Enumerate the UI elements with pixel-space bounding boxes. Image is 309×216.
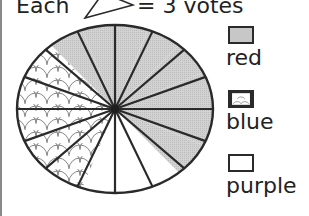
legend-label: purple (226, 174, 297, 198)
swatch-blue-icon (228, 90, 254, 108)
legend-label: blue (226, 110, 274, 134)
key-value: = 3 votes (137, 0, 244, 19)
pie-wedge-icon (83, 0, 135, 19)
swatch-purple-icon (228, 154, 254, 172)
swatch-red-icon (228, 26, 254, 44)
pie-chart (0, 20, 220, 216)
key-prefix: Each (16, 0, 69, 19)
legend-label: red (226, 46, 262, 70)
